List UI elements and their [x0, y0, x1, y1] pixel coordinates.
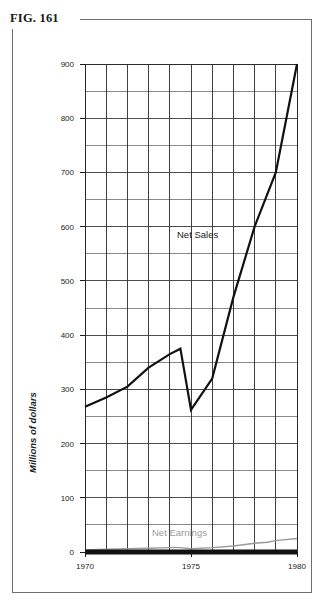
chart-svg — [0, 0, 324, 606]
series-label-net-earnings: Net Earnings — [152, 527, 207, 538]
y-tick-label: 0 — [42, 548, 74, 557]
y-tick-label: 300 — [42, 385, 74, 394]
x-tick-label: 1975 — [171, 562, 211, 571]
y-tick-label: 900 — [42, 60, 74, 69]
figure-container: FIG. 161 0100200300400500600700800900 19… — [0, 0, 324, 606]
y-tick-label: 400 — [42, 331, 74, 340]
y-tick-label: 100 — [42, 493, 74, 502]
series-label-net-sales: Net Sales — [177, 229, 218, 240]
y-tick-label: 500 — [42, 276, 74, 285]
x-tick-label: 1970 — [65, 562, 105, 571]
gridlines-minor — [85, 64, 297, 552]
y-axis-title: Millions of dollars — [27, 392, 38, 473]
x-tick-label: 1980 — [277, 562, 317, 571]
chart-plot-area: 0100200300400500600700800900 19701975198… — [0, 0, 324, 606]
y-tick-label: 200 — [42, 439, 74, 448]
y-tick-label: 800 — [42, 114, 74, 123]
y-tick-label: 700 — [42, 168, 74, 177]
y-tick-marks — [80, 64, 85, 552]
y-tick-label: 600 — [42, 222, 74, 231]
